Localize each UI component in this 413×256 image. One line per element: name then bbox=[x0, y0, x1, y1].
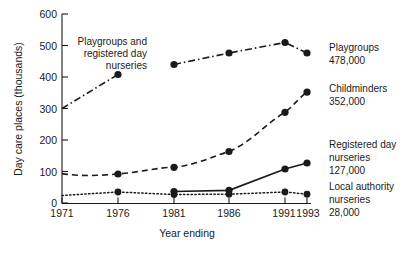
y-axis-tick-labels: 600 500 400 300 200 100 0 bbox=[39, 8, 57, 209]
data-point bbox=[114, 170, 121, 177]
data-point bbox=[114, 71, 121, 78]
end-label-lan-name-1: Local authority bbox=[329, 181, 394, 192]
x-axis-tick-labels: 1971 1976 1981 1986 1991 1993 bbox=[50, 207, 320, 219]
x-tick-label-1991: 1991 bbox=[272, 207, 296, 219]
series-line-playgroups bbox=[174, 43, 307, 65]
annotation-line-1: Playgroups and bbox=[78, 36, 148, 47]
data-point bbox=[282, 189, 289, 196]
data-point bbox=[226, 191, 233, 198]
chart-container: 600 500 400 300 200 100 0 1971 1976 1981… bbox=[0, 0, 413, 256]
y-tick-label-500: 500 bbox=[39, 40, 57, 52]
end-label-childminders-value: 352,000 bbox=[329, 96, 366, 107]
end-label-rdn-value: 127,000 bbox=[329, 165, 366, 176]
end-label-local-authority-nurseries: Local authority nurseries 28,000 bbox=[329, 181, 394, 218]
data-point bbox=[303, 159, 310, 166]
x-tick-label-1976: 1976 bbox=[106, 207, 130, 219]
data-point bbox=[304, 191, 311, 198]
y-tick-label-400: 400 bbox=[39, 71, 57, 83]
data-point bbox=[303, 49, 310, 56]
end-label-childminders-name: Childminders bbox=[329, 83, 387, 94]
data-point bbox=[171, 191, 178, 198]
series-playgroups bbox=[170, 39, 310, 68]
data-point bbox=[115, 189, 122, 196]
y-axis-title: Day care places (thousands) bbox=[12, 42, 24, 176]
data-point bbox=[225, 49, 232, 56]
data-point bbox=[281, 39, 288, 46]
data-point bbox=[170, 164, 177, 171]
data-point bbox=[170, 61, 177, 68]
x-tick-label-1971: 1971 bbox=[50, 207, 74, 219]
data-point bbox=[225, 148, 232, 155]
y-tick-label-300: 300 bbox=[39, 103, 57, 115]
end-label-playgroups: Playgroups 478,000 bbox=[329, 42, 379, 66]
series-line-lan bbox=[62, 192, 307, 196]
series-childminders bbox=[62, 89, 311, 178]
end-label-childminders: Childminders 352,000 bbox=[329, 83, 387, 107]
y-tick-label-600: 600 bbox=[39, 8, 57, 20]
y-tick-label-200: 200 bbox=[39, 134, 57, 146]
annotation-line-3: nurseries bbox=[106, 60, 147, 71]
series-combined-playgroups-rdn bbox=[62, 71, 122, 109]
x-tick-label-1981: 1981 bbox=[162, 207, 186, 219]
x-tick-label-1986: 1986 bbox=[217, 207, 241, 219]
combined-series-annotation: Playgroups and registered day nurseries bbox=[78, 36, 148, 71]
x-axis-ticks bbox=[62, 198, 307, 204]
x-tick-label-1993: 1993 bbox=[296, 207, 320, 219]
end-label-playgroups-name: Playgroups bbox=[329, 42, 379, 53]
y-tick-label-100: 100 bbox=[39, 166, 57, 178]
data-point bbox=[303, 89, 310, 96]
x-axis-title: Year ending bbox=[159, 227, 215, 239]
end-label-lan-value: 28,000 bbox=[329, 207, 360, 218]
data-point bbox=[281, 165, 288, 172]
end-label-rdn-name-2: nurseries bbox=[329, 152, 370, 163]
series-line-combined bbox=[62, 75, 118, 109]
annotation-line-2: registered day bbox=[84, 48, 147, 59]
end-label-rdn-name-1: Registered day bbox=[329, 139, 396, 150]
series-local-authority-nurseries bbox=[62, 189, 310, 198]
series-line-childminders bbox=[62, 92, 307, 175]
day-care-places-line-chart: 600 500 400 300 200 100 0 1971 1976 1981… bbox=[0, 0, 413, 256]
data-point bbox=[281, 109, 288, 116]
end-label-registered-day-nurseries: Registered day nurseries 127,000 bbox=[329, 139, 396, 176]
end-label-lan-name-2: nurseries bbox=[329, 194, 370, 205]
end-label-playgroups-value: 478,000 bbox=[329, 55, 366, 66]
